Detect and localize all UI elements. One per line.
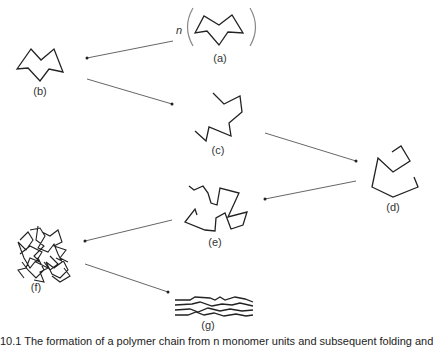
- arrow-f-to-g: [85, 264, 168, 292]
- arrow-c-to-d: [265, 133, 356, 161]
- entangled-shape: [18, 226, 70, 282]
- panel-d-chain: [372, 146, 418, 197]
- arrow-b-to-c: [87, 79, 172, 104]
- panel-c-chain: [195, 93, 242, 141]
- panel-a-monomer: [188, 8, 256, 46]
- monomer-shape: [17, 49, 63, 81]
- monomer-shape: [195, 15, 243, 45]
- multiplier-label: n: [176, 24, 182, 36]
- label-d: (d): [378, 201, 408, 213]
- chain-line-1: [175, 297, 253, 302]
- chain-shape: [372, 146, 418, 197]
- chain-line-3: [175, 308, 253, 312]
- panel-e-chain: [185, 186, 247, 231]
- label-f: (f): [21, 281, 51, 293]
- panel-g-aligned: [175, 297, 253, 316]
- right-paren-icon: [250, 8, 256, 46]
- label-g: (g): [193, 319, 223, 331]
- label-a: (a): [205, 52, 235, 64]
- left-paren-icon: [188, 8, 194, 46]
- label-e: (e): [200, 236, 230, 248]
- chain-shape: [195, 93, 242, 141]
- chain-shape: [185, 186, 247, 231]
- chain-line-2: [175, 302, 253, 306]
- label-c: (c): [203, 144, 233, 156]
- chain-line-4: [175, 312, 253, 316]
- arrows: [85, 41, 356, 292]
- arrow-e-to-f: [85, 220, 172, 241]
- label-b: (b): [25, 85, 55, 97]
- arrow-d-to-e: [265, 181, 356, 199]
- figure-caption: 10.1 The formation of a polymer chain fr…: [0, 335, 433, 347]
- panel-b-monomer: [17, 49, 63, 81]
- arrow-a-to-b: [87, 41, 173, 58]
- panel-f-entangled: [18, 226, 70, 282]
